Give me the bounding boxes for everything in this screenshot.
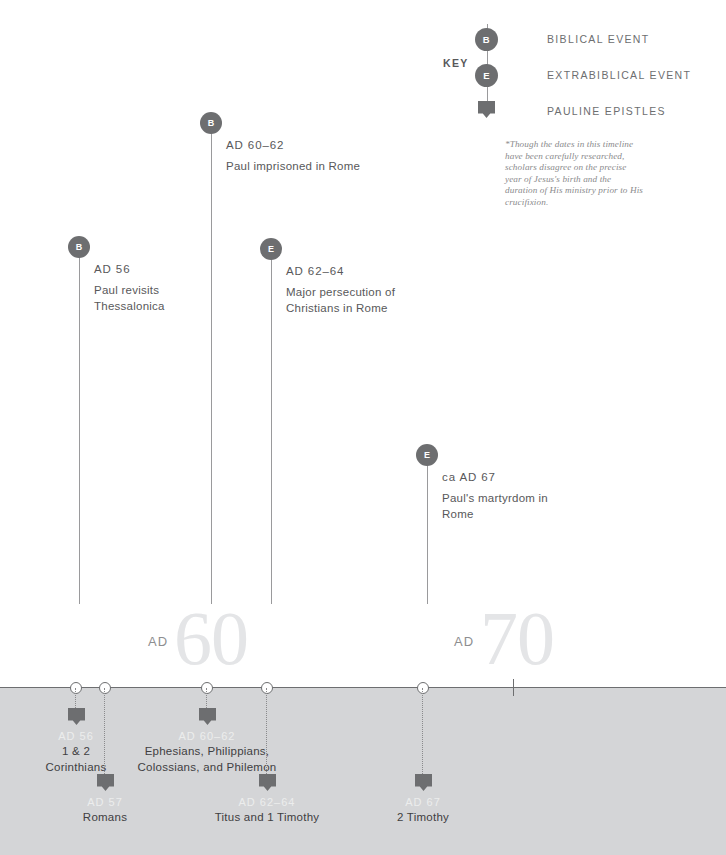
extrabiblical-event-badge-icon: E [416, 444, 438, 466]
epistle-connector [422, 688, 424, 776]
event-date: AD 56 [94, 263, 130, 275]
key-label: KEY [443, 57, 469, 69]
extrabiblical-event-badge-icon: E [260, 238, 282, 260]
decade-era-label: AD [148, 634, 168, 649]
key-item-label: BIBLICAL EVENT [547, 33, 650, 45]
biblical-event-badge-icon: B [68, 236, 90, 258]
decade-number: 60 [174, 600, 248, 676]
event-stem [211, 122, 212, 604]
event-stem [427, 454, 428, 604]
epistle-date: AD 60–62 [107, 730, 307, 742]
epistle-connector [206, 688, 208, 710]
event-description: Paul's martyrdom in Rome [442, 491, 577, 522]
epistle-connector [75, 688, 77, 710]
decade-era-label: AD [454, 634, 474, 649]
epistle-name: Titus and 1 Timothy [182, 810, 352, 826]
epistle-name: Ephesians, Philippians, Colossians, and … [107, 744, 307, 775]
event-stem [271, 248, 272, 604]
biblical-event-badge-icon: B [200, 112, 222, 134]
event-date: ca AD 67 [442, 471, 496, 483]
event-description: Paul revisits Thessalonica [94, 283, 229, 314]
event-description: Paul imprisoned in Rome [226, 159, 361, 175]
epistle-date: AD 57 [50, 796, 160, 808]
biblical-event-badge-icon: B [475, 28, 498, 51]
footnote-text: *Though the dates in this timeline have … [505, 139, 645, 209]
epistle-connector [266, 688, 268, 776]
axis-tick [513, 679, 514, 696]
key-item-label: PAULINE EPISTLES [547, 105, 666, 117]
key-legend: KEY B BIBLICAL EVENT E EXTRABIBLICAL EVE… [443, 24, 683, 134]
pauline-epistle-shield-icon [478, 101, 495, 118]
epistle-name: 2 Timothy [358, 810, 488, 826]
decade-number: 70 [480, 600, 554, 676]
event-date: AD 62–64 [286, 265, 344, 277]
key-item-label: EXTRABIBLICAL EVENT [547, 69, 691, 81]
event-stem [79, 246, 80, 604]
epistle-date: AD 67 [358, 796, 488, 808]
epistle-date: AD 62–64 [182, 796, 352, 808]
event-date: AD 60–62 [226, 139, 284, 151]
extrabiblical-event-badge-icon: E [475, 64, 498, 87]
epistle-name: Romans [50, 810, 160, 826]
timeline-infographic: KEY B BIBLICAL EVENT E EXTRABIBLICAL EVE… [0, 0, 726, 855]
event-description: Major persecution of Christians in Rome [286, 285, 421, 316]
